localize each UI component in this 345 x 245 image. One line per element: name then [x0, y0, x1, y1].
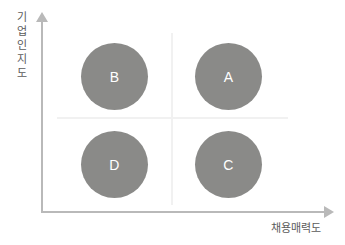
- y-axis-line: [41, 20, 43, 213]
- bubble-bottom-right: C: [195, 131, 262, 198]
- quadrant-matrix-chart: B A D C 기업인지도 채용매력도: [0, 0, 345, 245]
- x-axis-title: 채용매력도: [271, 219, 321, 235]
- bubble-top-right: A: [195, 43, 262, 110]
- bubble-label: A: [224, 70, 234, 84]
- bubble-bottom-left: D: [81, 131, 148, 198]
- bubble-top-left: B: [81, 43, 148, 110]
- bubble-label: D: [109, 158, 119, 172]
- y-axis-arrow-icon: [36, 12, 48, 22]
- y-axis-title: 기업인지도: [14, 10, 30, 80]
- x-axis-arrow-icon: [324, 206, 334, 218]
- x-axis-line: [41, 211, 326, 213]
- quadrant-divider-vertical: [171, 33, 173, 205]
- bubble-label: C: [223, 158, 233, 172]
- bubble-label: B: [110, 70, 120, 84]
